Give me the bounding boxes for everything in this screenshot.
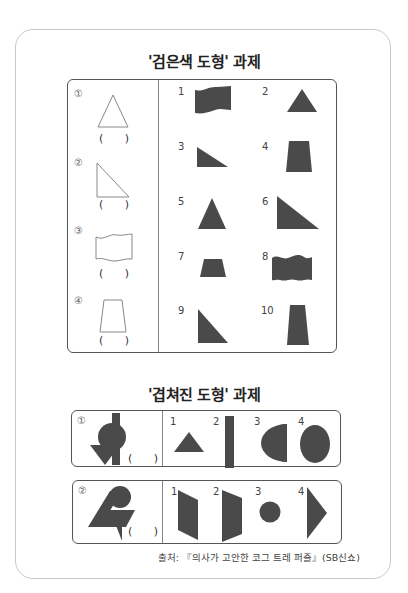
- item-number-6: 6: [262, 196, 268, 207]
- triangle-icon: [174, 432, 204, 452]
- opt-num: 1: [170, 416, 176, 427]
- item-number-4: 4: [262, 141, 268, 152]
- divider: [158, 80, 159, 352]
- outline-right-triangle-icon: [96, 162, 130, 198]
- short-trapezoid-icon: [200, 259, 226, 277]
- item-number-9: 9: [178, 305, 184, 316]
- ellipse-icon: [299, 424, 331, 464]
- item-number-7: 7: [178, 251, 184, 262]
- outline-trapezoid-icon: [99, 299, 127, 333]
- tall-trapezoid-icon: [287, 305, 309, 345]
- circle-icon: [259, 501, 281, 523]
- overlap-marker-1: ①: [77, 415, 86, 426]
- opt-num: 3: [255, 486, 261, 497]
- answer-blank-1[interactable]: ( ): [99, 132, 138, 145]
- right-triangle-large-icon: [277, 196, 319, 229]
- bar-icon: [225, 416, 235, 468]
- right-triangle-icon: [197, 147, 228, 167]
- marker-4: ④: [74, 295, 83, 306]
- item-number-2: 2: [262, 86, 268, 97]
- trapezoid-icon: [286, 141, 312, 172]
- opt-num: 2: [213, 416, 219, 427]
- item-number-10: 10: [261, 305, 274, 316]
- answer-blank-4[interactable]: ( ): [99, 334, 138, 347]
- opt-num: 1: [171, 486, 177, 497]
- marker-2: ②: [74, 157, 83, 168]
- item-number-8: 8: [262, 251, 268, 262]
- overlap-answer-2[interactable]: ( ): [128, 525, 167, 538]
- source-caption: 출처: 『의사가 고안한 코그 트레 퍼즐』(SB신쇼): [0, 550, 360, 564]
- opt-num: 2: [213, 486, 219, 497]
- item-number-5: 5: [178, 196, 184, 207]
- wavy-rectangle-icon: [272, 254, 312, 282]
- arrow-triangle-icon: [307, 487, 327, 539]
- triangle-icon: [287, 89, 317, 112]
- marker-3: ③: [74, 225, 83, 236]
- trapezoid-side-icon: [222, 490, 242, 542]
- half-circle-icon: [261, 424, 287, 462]
- overlap-marker-2: ②: [78, 485, 87, 496]
- wavy-flag-icon: [195, 86, 231, 114]
- outline-triangle-icon: [97, 94, 129, 128]
- item-number-1: 1: [178, 86, 184, 97]
- opt-num: 3: [254, 416, 260, 427]
- item-number-3: 3: [178, 141, 184, 152]
- overlap-answer-1[interactable]: ( ): [128, 452, 167, 465]
- narrow-triangle-icon: [198, 198, 226, 229]
- outline-wavy-rectangle-icon: [95, 233, 133, 263]
- parallelogram-icon: [178, 490, 198, 540]
- opt-num: 4: [298, 486, 304, 497]
- answer-blank-3[interactable]: ( ): [99, 267, 138, 280]
- section2-title: '겹쳐진 도형' 과제: [0, 383, 408, 404]
- answer-blank-2[interactable]: ( ): [99, 198, 138, 211]
- marker-1: ①: [74, 88, 83, 99]
- section1-title: '검은색 도형' 과제: [0, 50, 408, 71]
- right-triangle-tall-icon: [198, 309, 228, 343]
